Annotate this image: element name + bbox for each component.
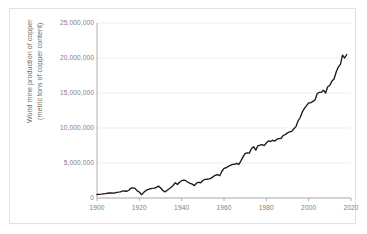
plot-area-wrapper: World mine production of copper (metric …: [10, 9, 357, 225]
chart-figure: World mine production of copper (metric …: [9, 8, 356, 224]
gridlines: [97, 23, 351, 198]
series-line-copper-production: [97, 55, 347, 195]
axis-lines: [97, 23, 351, 201]
chart-canvas: [10, 9, 357, 225]
